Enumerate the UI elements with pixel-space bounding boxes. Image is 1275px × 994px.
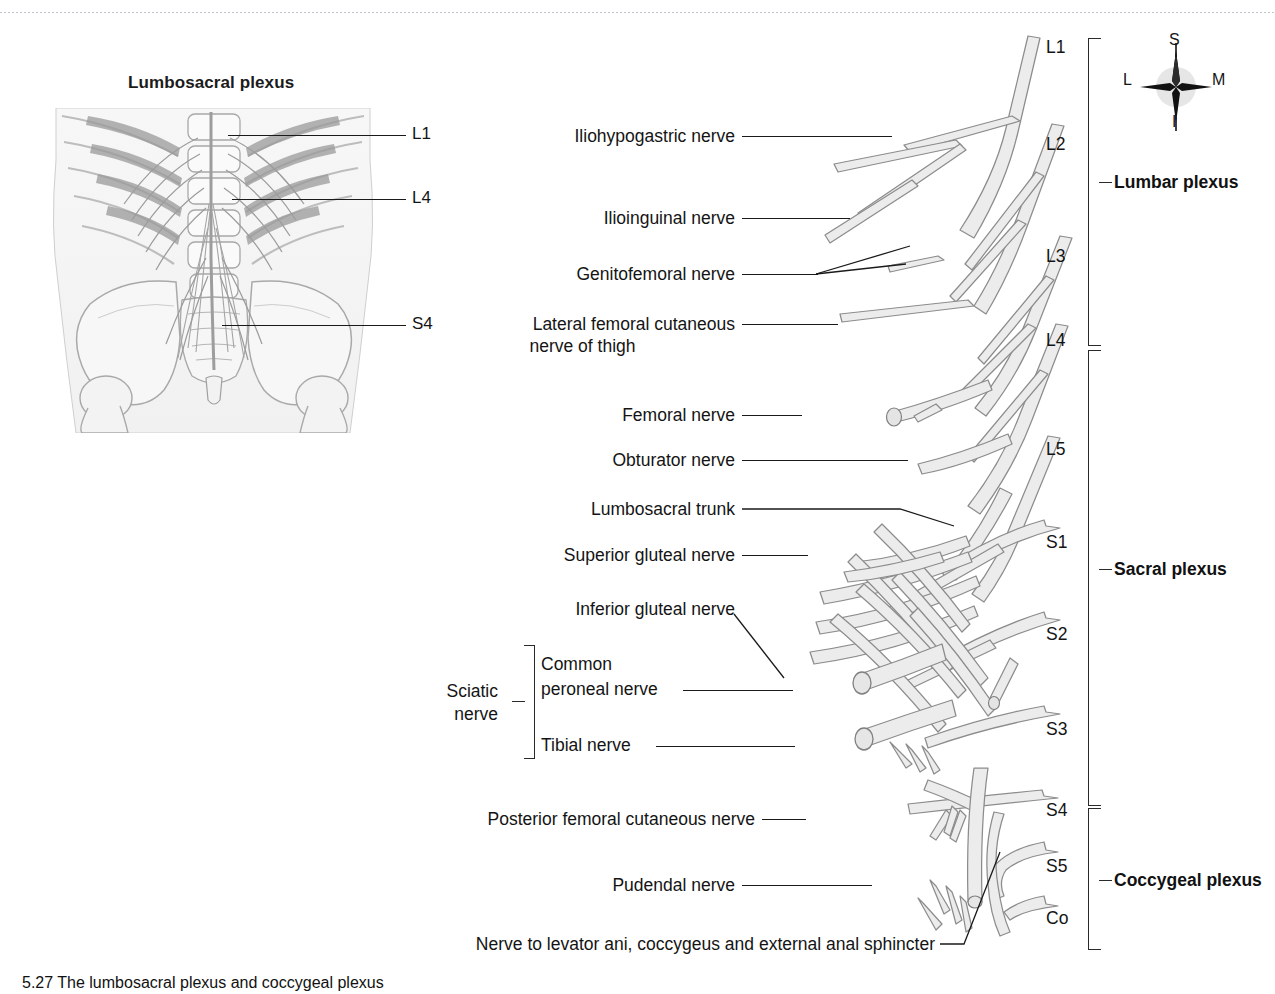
spinal-level-s1: S1 (1046, 532, 1067, 553)
label-obturator-nerve: Obturator nerve (430, 449, 735, 471)
label-genitofemoral-nerve: Genitofemoral nerve (430, 263, 735, 285)
sciatic-nerve-bracket (524, 645, 535, 759)
label-inferior-gluteal-nerve: Inferior gluteal nerve (430, 598, 735, 620)
leader-genitofemoral-fork (814, 240, 924, 284)
group-label-sacral-plexus: Sacral plexus (1114, 559, 1227, 580)
label-nerve-to-levator-ani: Nerve to levator ani, coccygeus and exte… (330, 933, 935, 955)
compass-label-superior: S (1169, 31, 1180, 49)
spinal-level-s4: S4 (1046, 800, 1067, 821)
label-sciatic-nerve-line2: nerve (406, 703, 498, 725)
group-label-lumbar-plexus: Lumbar plexus (1114, 172, 1238, 193)
spinal-level-l1: L1 (1046, 37, 1065, 58)
leader-tibial-nerve (656, 746, 795, 747)
inset-anatomy-illustration (28, 108, 400, 433)
label-ilioinguinal-nerve: Ilioinguinal nerve (430, 207, 735, 229)
label-posterior-femoral-cutaneous-nerve: Posterior femoral cutaneous nerve (400, 808, 755, 830)
leader-ilioinguinal-nerve (742, 218, 850, 219)
leader-obturator-nerve (742, 460, 908, 461)
leader-lateral-femoral-cutaneous-nerve (742, 324, 838, 325)
leader-inferior-gluteal-nerve (730, 612, 790, 684)
group-label-coccygeal-plexus: Coccygeal plexus (1114, 870, 1262, 891)
sacral-plexus-bracket-tick (1099, 569, 1112, 570)
top-dotted-rule (0, 12, 1275, 13)
leader-pudendal-nerve (742, 885, 872, 886)
sacral-plexus-bracket (1088, 350, 1101, 806)
spinal-level-s5: S5 (1046, 856, 1067, 877)
sciatic-nerve-bracket-tick (512, 701, 525, 702)
label-common-peroneal-nerve-line1: Common (541, 653, 612, 675)
label-superior-gluteal-nerve: Superior gluteal nerve (430, 544, 735, 566)
coccygeal-plexus-bracket (1088, 808, 1101, 950)
spinal-level-co: Co (1046, 908, 1068, 929)
leader-lumbosacral-trunk (740, 504, 960, 532)
compass-label-inferior: I (1172, 113, 1176, 131)
spinal-level-l2: L2 (1046, 134, 1065, 155)
leader-common-peroneal-nerve (683, 690, 793, 691)
figure-caption: 5.27 The lumbosacral plexus and coccygea… (22, 974, 384, 992)
compass-label-lateral: L (1123, 71, 1132, 89)
inset-level-label-l4: L4 (412, 188, 431, 208)
inset-level-label-l1: L1 (412, 124, 431, 144)
inset-leader-l4 (232, 199, 406, 200)
spinal-level-l4: L4 (1046, 330, 1065, 351)
label-pudendal-nerve: Pudendal nerve (430, 874, 735, 896)
leader-iliohypogastric-nerve (742, 136, 892, 137)
inset-leader-s4 (222, 325, 406, 326)
label-iliohypogastric-nerve: Iliohypogastric nerve (430, 125, 735, 147)
coccygeal-plexus-bracket-tick (1099, 880, 1112, 881)
spinal-level-l5: L5 (1046, 439, 1065, 460)
label-lateral-femoral-cutaneous-nerve-line2: nerve of thigh (430, 335, 735, 357)
lumbar-plexus-bracket-tick (1099, 182, 1112, 183)
label-sciatic-nerve-line1: Sciatic (406, 680, 498, 702)
label-common-peroneal-nerve-line2: peroneal nerve (541, 678, 658, 700)
leader-superior-gluteal-nerve (742, 555, 808, 556)
label-tibial-nerve: Tibial nerve (541, 734, 631, 756)
leader-femoral-nerve (742, 415, 802, 416)
lumbosacral-plexus-diagram (760, 24, 1080, 954)
spinal-level-s2: S2 (1046, 624, 1067, 645)
inset-title: Lumbosacral plexus (128, 73, 294, 93)
inset-leader-l1 (228, 135, 406, 136)
leader-nerve-to-levator-ani (938, 848, 1004, 948)
label-lumbosacral-trunk: Lumbosacral trunk (430, 498, 735, 520)
label-lateral-femoral-cutaneous-nerve: Lateral femoral cutaneous (430, 313, 735, 335)
compass-label-medial: M (1212, 71, 1225, 89)
figure-canvas: Lumbosacral plexus (0, 0, 1275, 994)
label-femoral-nerve: Femoral nerve (430, 404, 735, 426)
lumbar-plexus-bracket (1088, 38, 1101, 346)
leader-genitofemoral-nerve (742, 274, 818, 275)
spinal-level-s3: S3 (1046, 719, 1067, 740)
leader-posterior-femoral-cutaneous-nerve (762, 819, 806, 820)
spinal-level-l3: L3 (1046, 246, 1065, 267)
